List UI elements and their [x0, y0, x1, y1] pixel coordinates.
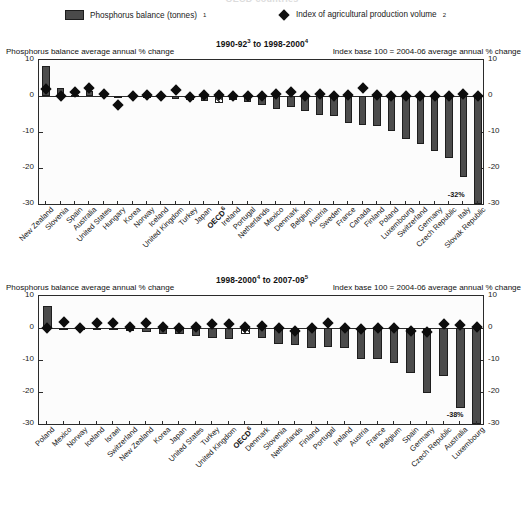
panel-2-x-axis-labels: PolandMexicoNorwayIcelandIsraelSwitzerla…: [38, 425, 484, 487]
legend-superscript-2: 2: [443, 12, 446, 18]
diamond-new-zealand: [141, 317, 152, 328]
bar-czech-republic: [439, 328, 448, 376]
panel-2-plot-area: -38% 101000-10-10-20-20-30-30: [0, 295, 524, 425]
y-tick-label-right: -10: [488, 354, 522, 363]
x-tick-mark: [275, 201, 276, 205]
x-tick-mark: [103, 201, 104, 205]
diamond-united-kingdom: [170, 84, 181, 95]
bar-switzerland: [417, 96, 424, 144]
bar-swatch-icon: [65, 10, 84, 20]
x-tick-mark: [96, 421, 97, 425]
x-tick-mark: [228, 421, 229, 425]
y-tick-mark: [39, 96, 43, 97]
x-tick-mark: [74, 201, 75, 205]
bar-germany: [423, 328, 432, 393]
panel-2-axis-captions: Phosphorus balance average annual % chan…: [0, 283, 524, 295]
x-tick-mark: [393, 421, 394, 425]
legend-superscript-1: 1: [203, 12, 206, 18]
diamond-marker-icon: [278, 9, 289, 20]
x-tick-mark: [459, 421, 460, 425]
bar-australia: [456, 328, 465, 408]
x-tick-mark: [344, 421, 345, 425]
diamond-switzerland: [124, 322, 135, 333]
x-tick-mark: [46, 421, 47, 425]
diamond-korea: [127, 90, 138, 101]
y-tick-label-left: 0: [0, 90, 34, 99]
bar-germany: [431, 96, 438, 151]
bar-canada: [359, 96, 366, 125]
diamond-united-states: [98, 88, 109, 99]
y-tick-label-right: -20: [488, 162, 522, 171]
x-tick-mark: [232, 201, 233, 205]
x-tick-mark: [477, 201, 478, 205]
bar-poland: [388, 96, 395, 131]
oecd-superscript: 6: [246, 425, 253, 432]
x-tick-mark: [377, 421, 378, 425]
y-tick-label-left: 0: [0, 322, 34, 331]
x-tick-mark: [390, 201, 391, 205]
y-tick-label-left: 10: [0, 54, 34, 63]
y-tick-label-right: 10: [488, 290, 522, 299]
panel-2-sup-2: 5: [305, 274, 308, 280]
x-tick-mark: [146, 201, 147, 205]
x-tick-mark: [218, 201, 219, 205]
x-tick-mark: [195, 421, 196, 425]
panel-1-plot-box: -32%: [38, 59, 484, 205]
x-tick-mark: [63, 421, 64, 425]
bar-value-annotation: -38%: [447, 410, 464, 419]
x-tick-mark: [419, 201, 420, 205]
panel-1-x-axis-labels: New ZealandSloveniaSpainAustraliaUnited …: [38, 205, 484, 267]
x-tick-mark: [162, 421, 163, 425]
x-label-korea: Korea: [152, 425, 173, 446]
panel-1-title: 1990-923 to 1998-20004: [0, 36, 524, 47]
y-tick-label-right: -20: [488, 386, 522, 395]
y-tick-mark: [39, 168, 43, 169]
y-tick-label-right: 10: [488, 54, 522, 63]
chart-legend: Phosphorus balance (tonnes) 1 Index of a…: [0, 9, 524, 25]
oecd-superscript: 6: [219, 205, 226, 212]
x-tick-mark: [88, 201, 89, 205]
diamond-iceland: [156, 91, 167, 102]
x-tick-mark: [203, 201, 204, 205]
x-tick-mark: [290, 201, 291, 205]
x-tick-mark: [79, 421, 80, 425]
bar-mexico: [59, 328, 68, 330]
x-tick-mark: [261, 421, 262, 425]
diamond-norway: [75, 322, 86, 333]
bar-portugal: [324, 328, 333, 347]
diamond-hungary: [112, 100, 123, 111]
x-tick-mark: [189, 201, 190, 205]
x-tick-mark: [376, 201, 377, 205]
x-tick-mark: [211, 421, 212, 425]
legend-label-phosphorus-balance: Phosphorus balance (tonnes): [90, 11, 197, 20]
bar-hungary: [114, 96, 121, 98]
x-tick-mark: [261, 201, 262, 205]
x-tick-mark: [145, 421, 146, 425]
cropped-page-title: OECD countries: [0, 0, 524, 4]
panel-2-plot-box: -38%: [38, 295, 484, 425]
x-tick-mark: [129, 421, 130, 425]
legend-label-production-index: Index of agricultural production volume: [296, 10, 437, 19]
x-tick-mark: [311, 421, 312, 425]
bar-new-zealand: [142, 328, 151, 332]
x-tick-mark: [327, 421, 328, 425]
x-tick-mark: [347, 201, 348, 205]
panel-1-sup-2: 4: [305, 38, 308, 44]
panel-1998-2007: 1998-20004 to 2007-095 Phosphorus balanc…: [0, 272, 524, 485]
y-tick-mark: [39, 360, 43, 361]
x-tick-mark: [45, 201, 46, 205]
y-tick-mark: [39, 392, 43, 393]
y-tick-label-right: 0: [488, 90, 522, 99]
chart-page: OECD countries Phosphorus balance (tonne…: [0, 0, 524, 508]
panel-1-plot-area: -32% 101000-10-10-20-20-30-30: [0, 59, 524, 205]
x-tick-mark: [304, 201, 305, 205]
bar-value-annotation: -32%: [448, 190, 465, 199]
y-tick-label-left: 10: [0, 290, 34, 299]
x-tick-mark: [178, 421, 179, 425]
x-tick-mark: [294, 421, 295, 425]
x-tick-mark: [448, 201, 449, 205]
x-tick-mark: [319, 201, 320, 205]
diamond-norway: [141, 90, 152, 101]
bar-luxembourg: [402, 96, 409, 139]
x-tick-mark: [278, 421, 279, 425]
